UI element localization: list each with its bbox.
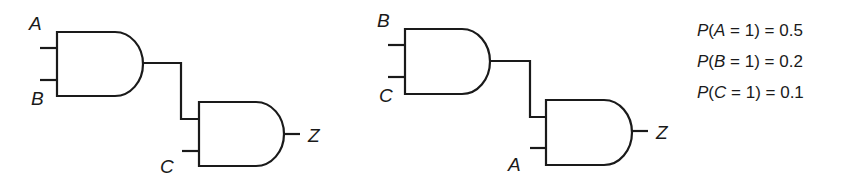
prob-value: 0.1 [780, 83, 804, 102]
prob-value-eq: 1 [745, 52, 754, 71]
prob-value: 0.5 [779, 21, 803, 40]
probability-b: P(B = 1) = 0.2 [697, 52, 803, 72]
label-output: Z [307, 125, 321, 146]
label-output: Z [655, 122, 669, 143]
probability-c: P(C = 1) = 0.1 [697, 83, 804, 103]
prob-value: 0.2 [779, 52, 803, 71]
prob-value-eq: 1 [746, 83, 755, 102]
probability-a: P(A = 1) = 0.5 [697, 21, 803, 41]
connecting-wire [143, 63, 199, 119]
prob-var: C [714, 83, 726, 102]
prob-value-eq: 1 [745, 21, 754, 40]
and-gate-1 [57, 32, 143, 96]
label-input-2: C [379, 85, 393, 106]
and-gate-2 [199, 102, 284, 166]
label-input-2: B [31, 88, 44, 109]
label-input-1: A [28, 13, 42, 34]
label-input-3: A [507, 154, 521, 175]
prob-var: B [714, 52, 725, 71]
connecting-wire [490, 61, 546, 117]
right-circuit: B C A Z [377, 10, 669, 175]
prob-var: A [714, 21, 725, 40]
left-circuit: A B C Z [28, 13, 321, 177]
and-gate-2 [546, 100, 632, 165]
and-gate-1 [405, 29, 490, 94]
label-input-1: B [377, 10, 390, 31]
label-input-3: C [160, 156, 174, 177]
